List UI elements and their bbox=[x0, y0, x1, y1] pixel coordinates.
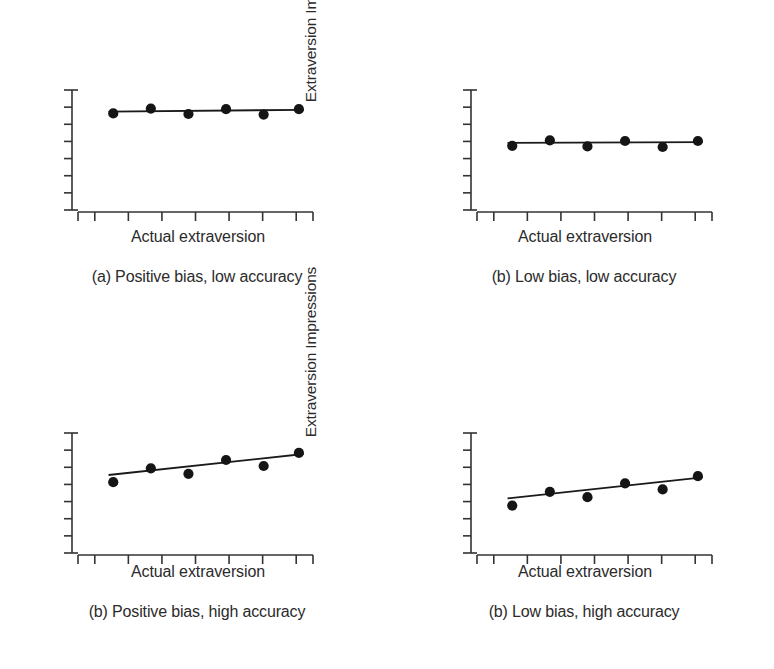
data-point bbox=[507, 501, 517, 511]
y-axis-label: Extraversion Impressions bbox=[294, 232, 328, 472]
y-axis-c bbox=[64, 433, 78, 553]
data-point bbox=[183, 469, 193, 479]
data-point bbox=[221, 104, 231, 114]
data-point bbox=[693, 471, 703, 481]
panel-c: Extraversion Impressions Actual extraver… bbox=[0, 335, 387, 669]
data-point bbox=[108, 108, 118, 118]
plot-c bbox=[0, 335, 387, 575]
panel-b: Extraversion Impressions Actual extraver… bbox=[387, 0, 774, 334]
data-series-a bbox=[108, 104, 304, 120]
data-point bbox=[259, 110, 269, 120]
y-axis-a bbox=[64, 90, 78, 210]
data-point bbox=[108, 477, 118, 487]
trend-line bbox=[109, 110, 304, 112]
data-point bbox=[507, 141, 517, 151]
data-point bbox=[221, 455, 231, 465]
plot-a bbox=[0, 0, 387, 240]
trend-line bbox=[109, 454, 304, 475]
data-series-c bbox=[108, 448, 304, 488]
x-axis-label: Actual extraversion bbox=[48, 563, 348, 581]
data-point bbox=[620, 478, 630, 488]
plot-d bbox=[387, 335, 774, 575]
data-series-b bbox=[507, 135, 703, 152]
x-axis-b bbox=[477, 212, 712, 221]
data-series-d bbox=[507, 471, 703, 511]
panel-a: Extraversion Impressions Actual extraver… bbox=[0, 0, 387, 334]
panel-d: Extraversion Impressions Actual extraver… bbox=[387, 335, 774, 669]
x-axis-label: Actual extraversion bbox=[435, 228, 735, 246]
data-point bbox=[545, 135, 555, 145]
x-axis-a bbox=[78, 212, 313, 221]
panel-caption-d: (b) Low bias, high accuracy bbox=[409, 603, 759, 621]
y-axis-d bbox=[463, 433, 477, 553]
data-point bbox=[582, 492, 592, 502]
data-point bbox=[620, 136, 630, 146]
trend-line bbox=[508, 477, 703, 498]
y-axis-label: Extraversion Impressions bbox=[294, 0, 328, 137]
panel-caption-c: (b) Positive bias, high accuracy bbox=[22, 603, 372, 621]
x-axis-label: Actual extraversion bbox=[435, 563, 735, 581]
data-point bbox=[658, 484, 668, 494]
data-point bbox=[658, 142, 668, 152]
data-point bbox=[146, 463, 156, 473]
panel-caption-b: (b) Low bias, low accuracy bbox=[409, 268, 759, 286]
data-point bbox=[693, 136, 703, 146]
plot-b bbox=[387, 0, 774, 240]
figure-container: Extraversion Impressions Actual extraver… bbox=[0, 0, 774, 669]
data-point bbox=[582, 141, 592, 151]
trend-line bbox=[508, 142, 703, 143]
data-point bbox=[259, 461, 269, 471]
data-point bbox=[146, 104, 156, 114]
data-point bbox=[183, 109, 193, 119]
data-point bbox=[545, 487, 555, 497]
y-axis-b bbox=[463, 90, 477, 210]
